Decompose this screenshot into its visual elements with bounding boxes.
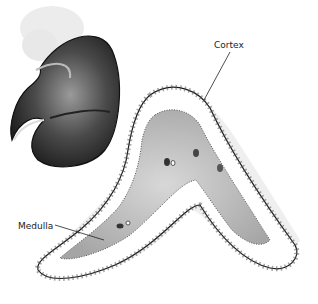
cortex-leader-line <box>204 52 230 100</box>
adrenal-illustration <box>0 0 318 304</box>
cortex-label: Cortex <box>214 40 244 50</box>
medulla-label: Medulla <box>18 221 53 231</box>
